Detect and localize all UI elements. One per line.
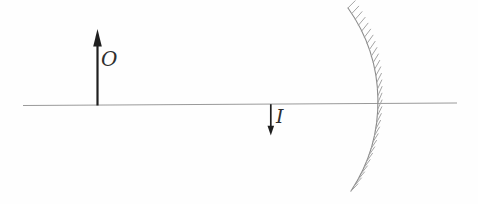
hatch-mark	[371, 48, 377, 56]
hatch-mark	[352, 6, 359, 13]
hatch-mark	[367, 35, 373, 43]
image-arrow-head	[268, 126, 275, 136]
hatch-mark	[376, 67, 381, 76]
hatch-mark	[377, 73, 382, 82]
hatch-mark	[365, 29, 371, 37]
mirror-curve	[348, 8, 378, 191]
image-arrow	[268, 104, 275, 135]
object-arrow-head	[93, 29, 102, 47]
hatch-mark	[355, 12, 362, 20]
hatch-mark	[359, 17, 366, 25]
mirror-hatching	[348, 1, 382, 191]
hatch-mark	[362, 23, 368, 31]
hatch-mark	[375, 60, 380, 69]
hatch-mark	[373, 54, 378, 63]
hatch-mark	[369, 41, 375, 49]
object-label: O	[101, 49, 117, 69]
image-label: I	[276, 107, 284, 126]
principal-axis-line	[23, 103, 457, 106]
optics-mirror-diagram: O I	[0, 0, 478, 204]
diagram-canvas	[0, 0, 478, 204]
hatch-mark	[348, 1, 355, 8]
